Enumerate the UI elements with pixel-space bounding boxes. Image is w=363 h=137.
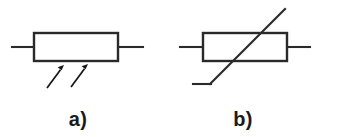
variable-resistor-body — [203, 33, 287, 61]
symbol-photoresistor: a) — [12, 33, 143, 130]
caption-a: a) — [69, 108, 87, 130]
caption-b: b) — [233, 108, 252, 130]
light-arrow-second — [71, 64, 88, 87]
symbol-variable-resistor: b) — [180, 9, 310, 130]
photoresistor-body — [34, 33, 118, 61]
circuit-symbol-diagram: a) b) — [0, 0, 363, 137]
light-arrow-first — [47, 65, 64, 88]
figure-root: a) b) — [0, 0, 363, 137]
